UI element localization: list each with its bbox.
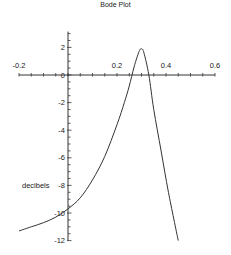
gain-curve <box>19 49 178 241</box>
y-tick-label: -2 <box>58 98 65 107</box>
y-tick-label: 0 <box>61 71 65 80</box>
y-tick-label: 2 <box>61 43 65 52</box>
y-tick-label: -12 <box>54 236 65 245</box>
bode-plot: -0.20.20.40.620-2-4-6-8-10-12decibels <box>0 0 231 255</box>
y-tick-label: -6 <box>58 153 65 162</box>
x-tick-label: 0.4 <box>161 61 171 70</box>
y-tick-label: -8 <box>58 181 65 190</box>
y-tick-label: -10 <box>54 209 65 218</box>
y-tick-label: -4 <box>58 126 65 135</box>
x-tick-label: -0.2 <box>13 61 26 70</box>
y-axis-label: decibels <box>22 181 50 190</box>
x-tick-label: 0.6 <box>210 61 220 70</box>
x-tick-label: 0.2 <box>112 61 122 70</box>
